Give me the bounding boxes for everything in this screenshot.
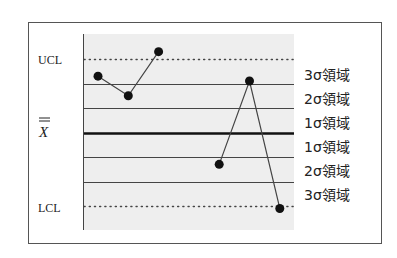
zone-label-plus3: 3σ領域 <box>304 67 350 83</box>
zone-label-minus3: 3σ領域 <box>304 187 350 203</box>
control-chart-svg: UCL X LCL 3σ領域 2σ領域 1σ領域 1σ領域 2σ領域 3σ領域 <box>0 0 397 258</box>
data-point <box>215 160 224 169</box>
plot-area <box>83 34 294 230</box>
data-point <box>275 204 284 213</box>
zone-label-minus2: 2σ領域 <box>304 163 350 179</box>
control-chart: UCL X LCL 3σ領域 2σ領域 1σ領域 1σ領域 2σ領域 3σ領域 <box>0 0 397 258</box>
data-point <box>94 72 103 81</box>
data-point <box>154 47 163 56</box>
xbar-text: X <box>38 124 49 140</box>
zone-label-plus2: 2σ領域 <box>304 91 350 107</box>
lcl-label: LCL <box>38 201 61 215</box>
zone-label-plus1: 1σ領域 <box>304 115 350 131</box>
ucl-label: UCL <box>38 53 62 67</box>
data-point <box>245 77 254 86</box>
zone-label-minus1: 1σ領域 <box>304 139 350 155</box>
data-point <box>124 91 133 100</box>
